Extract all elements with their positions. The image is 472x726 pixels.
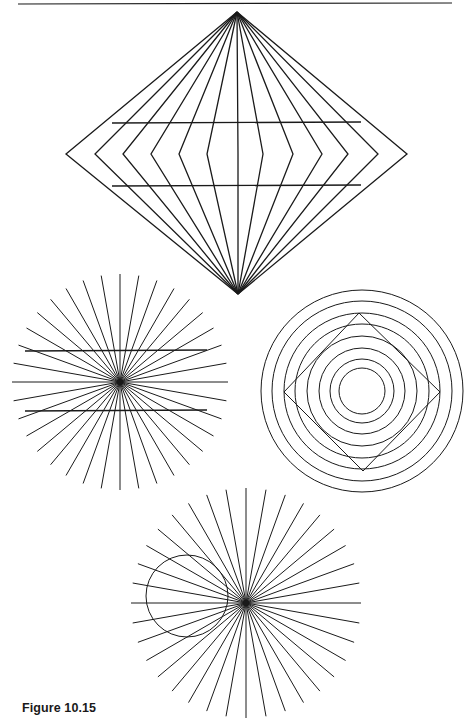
parallel-line xyxy=(112,122,361,123)
concentric-circle xyxy=(307,336,417,446)
circle-starburst-illusion xyxy=(131,488,361,718)
concentric-circle xyxy=(295,324,429,458)
diamond-ray-line xyxy=(95,12,238,294)
concentric-circle xyxy=(330,359,394,423)
starburst-center xyxy=(243,600,249,606)
figure-caption: Figure 10.15 xyxy=(22,701,96,715)
starburst-center xyxy=(117,379,123,385)
concentric-circle xyxy=(272,301,452,481)
concentric-circle xyxy=(319,348,405,434)
diamond-ray-line xyxy=(237,12,378,294)
diamond-ray-line xyxy=(237,12,263,294)
illusion-figure-canvas xyxy=(0,0,472,726)
concentric-circle xyxy=(339,368,385,414)
parallel-line xyxy=(25,410,207,411)
concentric-circles-square-illusion xyxy=(261,290,463,492)
diamond-illusion xyxy=(66,12,407,294)
hering-starburst-illusion xyxy=(12,274,228,490)
parallel-line xyxy=(25,350,207,351)
diamond-ray-line xyxy=(237,12,238,294)
concentric-circle xyxy=(261,290,463,492)
parallel-line xyxy=(112,185,361,186)
top-rule-divider xyxy=(18,3,452,4)
